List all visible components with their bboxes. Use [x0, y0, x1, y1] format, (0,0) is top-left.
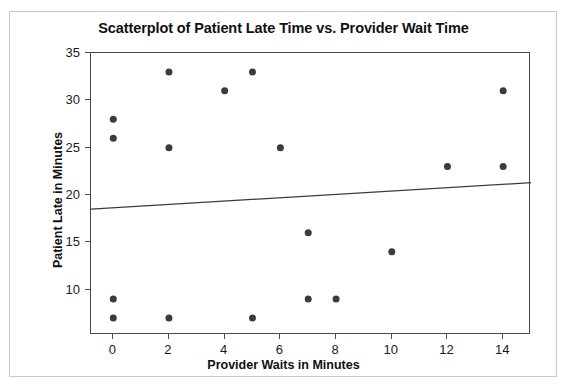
x-tick-label: 6 [259, 342, 299, 357]
x-axis-title: Provider Waits in Minutes [0, 358, 567, 372]
data-point [165, 314, 172, 321]
data-point [277, 144, 284, 151]
y-axis-title: Patient Late in Minutes [51, 80, 65, 320]
data-point [305, 229, 312, 236]
data-point [110, 116, 117, 123]
data-point [110, 314, 117, 321]
data-point [444, 163, 451, 170]
plot-canvas [91, 53, 531, 335]
data-point [388, 248, 395, 255]
data-point [305, 296, 312, 303]
data-point [500, 163, 507, 170]
x-tick-label: 8 [315, 342, 355, 357]
x-tick-label: 0 [92, 342, 132, 357]
x-tick-label: 10 [371, 342, 411, 357]
plot-area [90, 52, 530, 334]
y-tick-label: 35 [48, 45, 80, 60]
x-tick-label: 4 [204, 342, 244, 357]
data-point [249, 68, 256, 75]
trend-line [91, 183, 531, 210]
data-point [500, 87, 507, 94]
data-point [110, 135, 117, 142]
data-point [165, 68, 172, 75]
scatterplot-figure: Scatterplot of Patient Late Time vs. Pro… [0, 0, 567, 390]
data-point [221, 87, 228, 94]
data-point [333, 296, 340, 303]
data-points-group [110, 68, 507, 321]
x-tick-label: 2 [148, 342, 188, 357]
data-point [110, 296, 117, 303]
x-tick-label: 12 [426, 342, 466, 357]
x-tick-label: 14 [482, 342, 522, 357]
data-point [249, 314, 256, 321]
data-point [165, 144, 172, 151]
